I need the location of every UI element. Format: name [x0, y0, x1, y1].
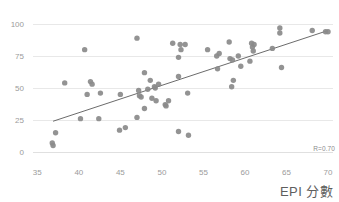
- data-point: [82, 47, 87, 52]
- trend-line: [53, 31, 328, 122]
- scatter-chart: 0255075100 3540455055606570 R=0.70 EPI 分…: [0, 0, 339, 202]
- data-point: [217, 51, 222, 56]
- data-point: [96, 116, 101, 121]
- x-tick-label-50: 50: [157, 168, 166, 177]
- data-point: [50, 143, 55, 148]
- data-point: [148, 78, 153, 83]
- data-point: [215, 66, 220, 71]
- data-point: [53, 130, 58, 135]
- data-point: [325, 29, 330, 34]
- y-tick-label-75: 75: [15, 52, 24, 61]
- data-point: [277, 25, 282, 30]
- data-point: [98, 90, 103, 95]
- y-tick-label-0: 0: [20, 148, 25, 157]
- data-point: [182, 42, 187, 47]
- y-tick-label-100: 100: [11, 20, 25, 29]
- data-point: [230, 57, 235, 62]
- data-point: [166, 98, 171, 103]
- data-point: [134, 35, 139, 40]
- data-point: [176, 55, 181, 60]
- data-point: [163, 103, 168, 108]
- data-point: [145, 87, 150, 92]
- data-point: [229, 84, 234, 89]
- data-point: [251, 42, 256, 47]
- y-tick-label-50: 50: [15, 84, 24, 93]
- data-point: [142, 70, 147, 75]
- y-tick-label-25: 25: [15, 116, 24, 125]
- data-point: [84, 92, 89, 97]
- data-point: [270, 46, 275, 51]
- data-point: [142, 106, 147, 111]
- data-point: [247, 58, 252, 63]
- data-point: [251, 48, 256, 53]
- data-point: [176, 129, 181, 134]
- x-tick-label-55: 55: [199, 168, 208, 177]
- y-axis-tick-labels: 0255075100: [11, 20, 25, 157]
- data-point: [156, 81, 161, 86]
- x-tick-label-45: 45: [116, 168, 125, 177]
- data-point: [238, 64, 243, 69]
- data-point: [123, 125, 128, 130]
- trendline-path: [53, 31, 328, 122]
- data-point: [176, 74, 181, 79]
- data-point: [134, 115, 139, 120]
- data-point: [118, 92, 123, 97]
- data-point: [186, 133, 191, 138]
- x-axis-title: EPI 分數: [280, 181, 333, 200]
- data-point: [153, 98, 158, 103]
- data-point: [89, 81, 94, 86]
- data-point: [236, 53, 241, 58]
- x-tick-label-35: 35: [33, 168, 42, 177]
- correlation-annotation: R=0.70: [313, 145, 335, 152]
- data-point: [138, 94, 143, 99]
- data-point: [178, 47, 183, 52]
- x-axis-tick-labels: 3540455055606570: [33, 168, 333, 177]
- data-point: [279, 65, 284, 70]
- x-tick-label-70: 70: [324, 168, 333, 177]
- data-point: [136, 88, 141, 93]
- data-point: [231, 78, 236, 83]
- x-tick-label-40: 40: [74, 168, 83, 177]
- plot-area: 0255075100 3540455055606570: [0, 0, 339, 202]
- data-point: [62, 80, 67, 85]
- data-point: [117, 127, 122, 132]
- data-point: [277, 30, 282, 35]
- data-point: [205, 47, 210, 52]
- data-point: [177, 42, 182, 47]
- data-point: [310, 28, 315, 33]
- data-point: [185, 90, 190, 95]
- x-tick-label-65: 65: [282, 168, 291, 177]
- data-point: [78, 116, 83, 121]
- data-point: [226, 39, 231, 44]
- data-point: [170, 41, 175, 46]
- x-tick-label-60: 60: [241, 168, 250, 177]
